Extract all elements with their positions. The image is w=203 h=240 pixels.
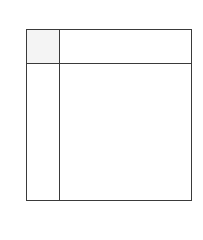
grid-diagram [26, 29, 192, 201]
horizontal-divider [27, 63, 191, 64]
row-header-cell [27, 64, 60, 200]
vertical-divider [59, 30, 60, 200]
corner-cell [27, 30, 60, 64]
column-header-cell [60, 30, 191, 64]
body-cell [60, 64, 191, 200]
